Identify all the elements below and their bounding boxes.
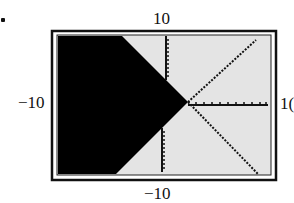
x-min-label: −10 [18, 94, 45, 111]
x-max-label: 1( [280, 95, 294, 112]
y-max-label: 10 [153, 10, 170, 27]
y-min-label: −10 [144, 185, 171, 202]
